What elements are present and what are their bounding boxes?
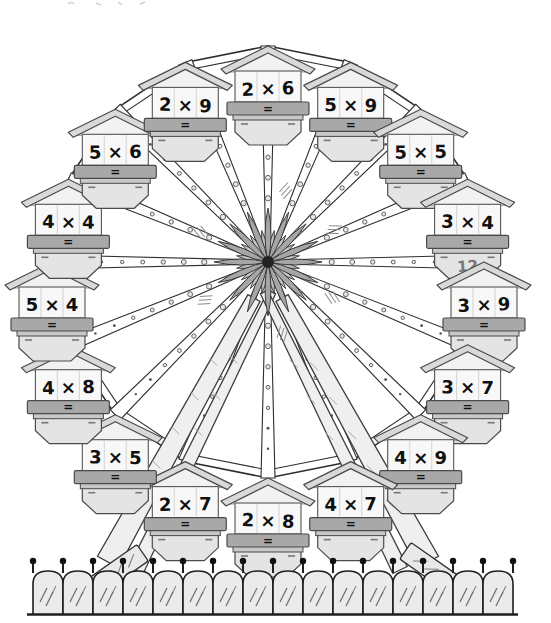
cabin-16: 2 × 9= <box>138 62 232 161</box>
ferris-wheel-illustration: 2 × 6=5 × 9=5 × 5=3 × 4=123 × 9=3 × 7=4 … <box>0 0 551 623</box>
fence-panel <box>273 571 303 614</box>
fence-post <box>150 558 156 573</box>
cabin-2: 5 × 9= <box>304 62 398 161</box>
equals-sign: = <box>346 118 356 132</box>
fence-post <box>360 558 366 573</box>
cabin-problem-text: 5 × 6 <box>89 141 142 163</box>
hub-core <box>262 256 274 268</box>
cabin-problem-text: 3 × 7 <box>441 376 494 398</box>
hub-hatch-marks <box>198 293 213 308</box>
fence-panel <box>363 571 393 614</box>
cabin-problem-text: 3 × 4 <box>441 210 494 233</box>
fence-post <box>90 558 96 573</box>
fence-panel <box>183 571 213 614</box>
fence-post <box>60 558 66 573</box>
equals-sign: = <box>479 318 489 332</box>
fence-panel <box>423 571 453 614</box>
fence-post <box>180 558 186 573</box>
cabin-problem-text: 5 × 4 <box>26 294 79 315</box>
equals-sign: = <box>263 102 273 116</box>
cabin-problem-text: 5 × 5 <box>394 141 447 163</box>
equals-sign: = <box>110 165 120 179</box>
equals-sign: = <box>463 235 473 249</box>
fence-panel <box>213 571 243 614</box>
equals-sign: = <box>180 517 190 531</box>
cabin-problem-text: 3 × 9 <box>457 293 510 316</box>
equals-sign: = <box>463 400 473 414</box>
fence-post <box>30 558 36 573</box>
cabin-problem-text: 4 × 9 <box>394 447 447 468</box>
fence-panel <box>333 571 363 614</box>
fence-post <box>510 558 516 573</box>
cabin-problem-text: 4 × 8 <box>42 376 95 399</box>
fence-panel <box>483 571 513 614</box>
cabin-problem-text: 2 × 9 <box>159 93 212 116</box>
equals-sign: = <box>47 318 57 332</box>
fence-panel <box>33 571 63 614</box>
cabin-problem-text: 2 × 7 <box>159 493 212 515</box>
fence-panel <box>93 571 123 614</box>
equals-sign: = <box>110 470 120 484</box>
cabin-problem-text: 2 × 8 <box>241 509 294 532</box>
fence-panel <box>453 571 483 614</box>
equals-sign: = <box>416 470 426 484</box>
cabin-problem-text: 4 × 4 <box>42 211 95 233</box>
fence-panel <box>153 571 183 614</box>
cabin-problem-text: 5 × 9 <box>324 94 377 116</box>
equals-sign: = <box>346 517 356 531</box>
fence-panel <box>393 571 423 614</box>
worksheet-page: 2 × 6=5 × 9=5 × 5=3 × 4=123 × 9=3 × 7=4 … <box>0 0 551 623</box>
equals-sign: = <box>63 400 73 414</box>
cropped-print-artifact <box>68 2 145 5</box>
fence-post <box>480 558 486 573</box>
cabin-problem-text: 4 × 7 <box>324 493 377 515</box>
fence-panel <box>303 571 333 614</box>
equals-sign: = <box>416 165 426 179</box>
fence-panel <box>123 571 153 614</box>
equals-sign: = <box>63 235 73 249</box>
fence-post <box>210 558 216 573</box>
equals-sign: = <box>263 534 273 548</box>
cabin-problem-text: 2 × 6 <box>241 77 294 100</box>
fence-post <box>300 558 306 573</box>
fence-post <box>330 558 336 573</box>
fence-panel <box>243 571 273 614</box>
fence-panel <box>63 571 93 614</box>
equals-sign: = <box>180 118 190 132</box>
cabin-problem-text: 3 × 5 <box>89 446 142 468</box>
